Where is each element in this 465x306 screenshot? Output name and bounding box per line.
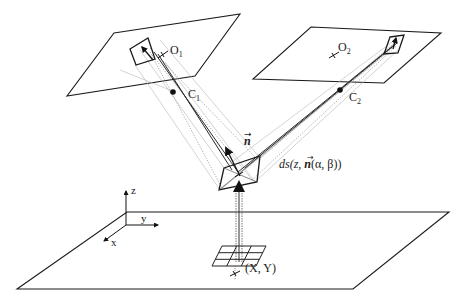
label-o1: O1 (170, 43, 183, 59)
label-o2: O2 (338, 40, 351, 56)
coordinate-axes: z y x (104, 184, 158, 248)
surface-element-arrow-accent: → (307, 153, 314, 162)
label-axis-y: y (141, 212, 147, 224)
left-image-patch (130, 38, 155, 65)
ground-point-marker (230, 271, 240, 276)
ground-plane (17, 212, 449, 289)
label-c1: C1 (188, 87, 200, 103)
camera-center-1-dot (170, 89, 176, 95)
normal-vector-arrow-accent: → (244, 129, 252, 139)
projection-rays-left (120, 40, 260, 190)
label-axis-x: x (111, 236, 117, 248)
label-ground-point: (X, Y) (245, 261, 276, 275)
camera-center-2-dot (337, 87, 343, 93)
optical-center-1-marker (158, 51, 168, 58)
stereo-geometry-diagram: O1 O2 C1 C2 n → ds(z, n(α, β)) → (X, Y (0, 0, 465, 306)
label-c2: C2 (349, 90, 361, 106)
label-axis-z: z (131, 184, 136, 196)
